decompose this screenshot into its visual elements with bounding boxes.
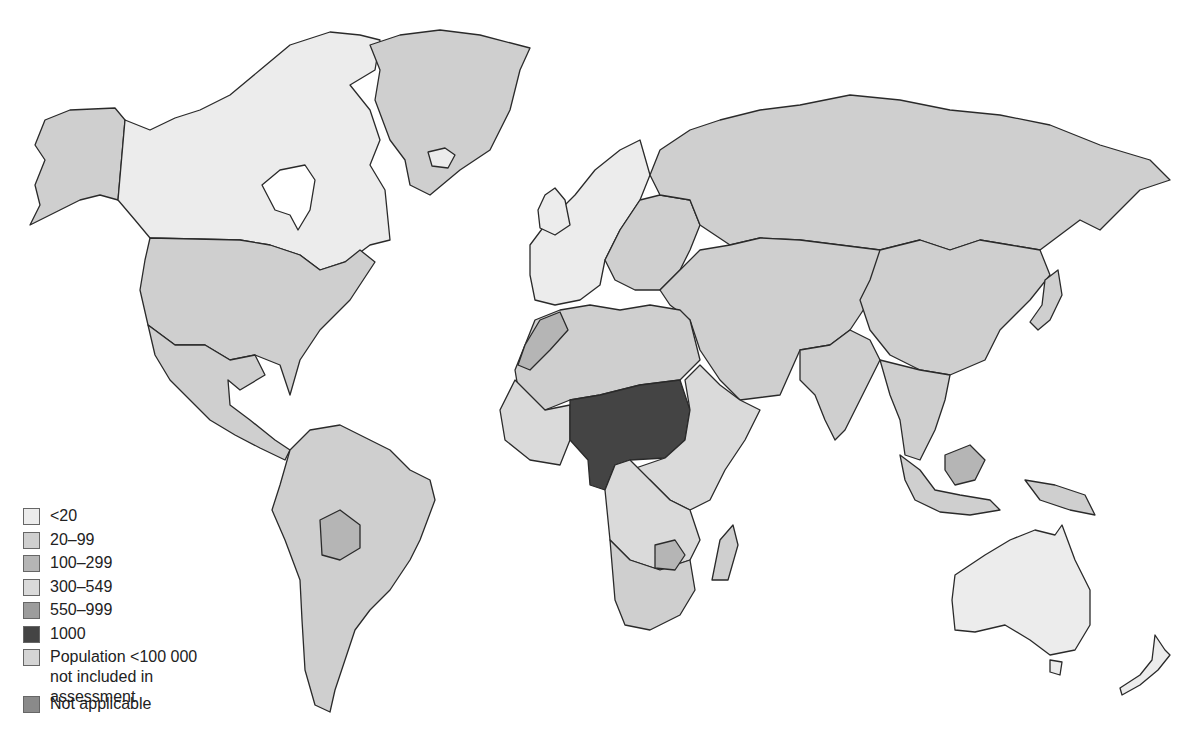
legend-label: 300–549 bbox=[50, 577, 112, 597]
region-madagascar bbox=[712, 525, 738, 580]
legend-label: 100–299 bbox=[50, 553, 112, 573]
legend-swatch bbox=[23, 555, 40, 572]
legend-item-lt20: <20 bbox=[23, 506, 220, 530]
region-south-america bbox=[272, 425, 435, 712]
legend-label: Not applicable bbox=[50, 694, 151, 714]
region-new-zealand bbox=[1120, 635, 1170, 695]
legend-label: 20–99 bbox=[50, 530, 95, 550]
region-borneo bbox=[945, 445, 985, 485]
legend-item-small-population: Population <100 000 not included in asse… bbox=[23, 647, 220, 694]
legend-swatch bbox=[23, 649, 40, 666]
legend-swatch bbox=[23, 579, 40, 596]
map-legend: <20 20–99 100–299 300–549 550–999 1000 P… bbox=[23, 506, 220, 718]
legend-swatch bbox=[23, 602, 40, 619]
legend-swatch bbox=[23, 532, 40, 549]
region-russia bbox=[650, 95, 1170, 250]
legend-item-1000: 1000 bbox=[23, 624, 220, 648]
legend-item-300-549: 300–549 bbox=[23, 577, 220, 601]
legend-item-100-299: 100–299 bbox=[23, 553, 220, 577]
legend-label: 550–999 bbox=[50, 600, 112, 620]
legend-item-550-999: 550–999 bbox=[23, 600, 220, 624]
region-greenland bbox=[370, 30, 530, 195]
legend-swatch bbox=[23, 508, 40, 525]
region-uk bbox=[538, 188, 570, 235]
region-papua-new-guinea bbox=[1025, 480, 1095, 515]
region-southeast-asia bbox=[880, 360, 950, 460]
legend-label: <20 bbox=[50, 506, 77, 526]
legend-label: 1000 bbox=[50, 624, 86, 644]
legend-item-20-99: 20–99 bbox=[23, 530, 220, 554]
region-australia bbox=[952, 525, 1090, 655]
region-canada bbox=[118, 32, 390, 270]
legend-swatch bbox=[23, 696, 40, 713]
region-alaska bbox=[30, 108, 125, 225]
region-china bbox=[860, 240, 1050, 375]
region-tasmania bbox=[1050, 660, 1062, 675]
legend-swatch bbox=[23, 626, 40, 643]
